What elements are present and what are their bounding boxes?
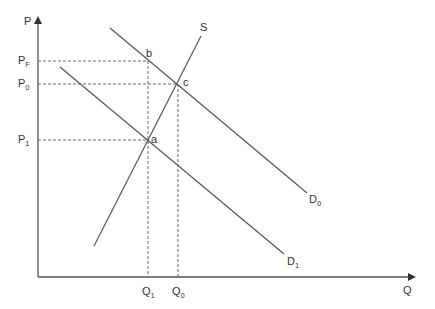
point-a-label: a [151,133,158,145]
supply-label: S [200,21,207,33]
q1-label: Q1 [142,285,155,300]
guide-lines [38,61,178,277]
price-axis-label: P [24,15,31,27]
d0-label: D0 [309,193,321,208]
quantity-axis-label: Q [403,284,412,296]
p1-label: P1 [18,133,30,148]
d1-label: D1 [287,255,299,270]
demand-curve-d0 [110,28,307,193]
demand-curve-d1 [60,67,284,254]
pf-label: PF [18,54,30,69]
p0-label: P0 [18,77,30,92]
point-b-label: b [146,47,152,59]
point-c-label: c [183,76,189,88]
supply-demand-diagram: P Q S D0 D1 PF P0 P1 Q1 Q0 a b c [0,0,435,309]
q0-label: Q0 [172,285,185,300]
